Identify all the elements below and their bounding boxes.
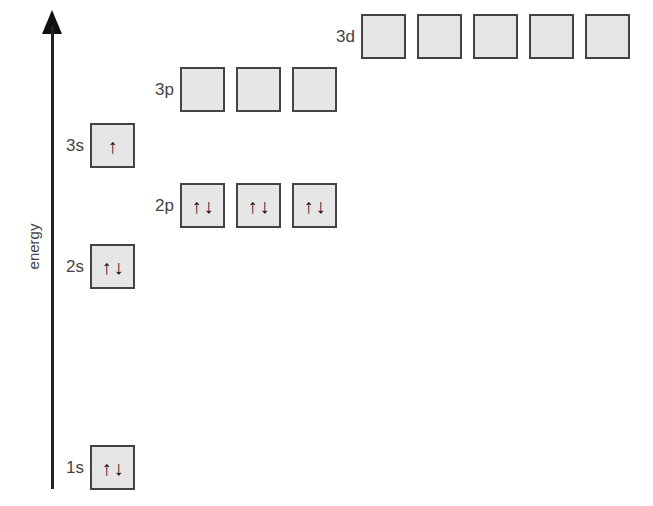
sublevel-1s: 1s ↑ ↓ <box>62 445 146 490</box>
orbital-box <box>585 14 630 59</box>
orbital-box <box>473 14 518 59</box>
orbital-box <box>236 67 281 112</box>
sublevel-3p: 3p <box>152 67 348 112</box>
spin-up-icon: ↑ <box>304 196 314 216</box>
orbital-box <box>361 14 406 59</box>
orbital-box <box>180 67 225 112</box>
orbital-box: ↑ ↓ <box>90 244 135 289</box>
spin-up-icon: ↑ <box>102 257 112 277</box>
orbital-box: ↑ ↓ <box>180 183 225 228</box>
orbital-box: ↑ ↓ <box>292 183 337 228</box>
spin-down-icon: ↓ <box>114 458 124 478</box>
sublevel-label: 2p <box>152 196 174 216</box>
axis-label: energy <box>25 217 42 277</box>
orbital-box: ↑ <box>90 123 135 168</box>
axis-line <box>51 26 54 489</box>
orbital-box <box>529 14 574 59</box>
spin-up-icon: ↑ <box>108 136 118 156</box>
spin-down-icon: ↓ <box>316 196 326 216</box>
sublevel-label: 3p <box>152 80 174 100</box>
spin-down-icon: ↓ <box>204 196 214 216</box>
spin-up-icon: ↑ <box>248 196 258 216</box>
orbital-box: ↑ ↓ <box>90 445 135 490</box>
sublevel-label: 2s <box>62 257 84 277</box>
sublevel-2s: 2s ↑ ↓ <box>62 244 146 289</box>
sublevel-label: 1s <box>62 458 84 478</box>
sublevel-3s: 3s ↑ <box>62 123 146 168</box>
orbital-box <box>417 14 462 59</box>
orbital-box <box>292 67 337 112</box>
sublevel-label: 3s <box>62 136 84 156</box>
spin-up-icon: ↑ <box>192 196 202 216</box>
sublevel-2p: 2p ↑ ↓ ↑ ↓ ↑ ↓ <box>152 183 348 228</box>
sublevel-3d: 3d <box>333 14 641 59</box>
spin-down-icon: ↓ <box>114 257 124 277</box>
sublevel-label: 3d <box>333 27 355 47</box>
orbital-box: ↑ ↓ <box>236 183 281 228</box>
spin-down-icon: ↓ <box>260 196 270 216</box>
spin-up-icon: ↑ <box>102 458 112 478</box>
